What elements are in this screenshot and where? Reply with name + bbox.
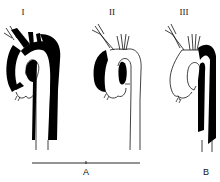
group-a-bracket <box>32 161 140 164</box>
aorta-type-3 <box>165 24 216 152</box>
aorta-diagram <box>0 0 220 182</box>
group-label-a: A <box>83 168 89 177</box>
aorta-type-2 <box>92 24 141 150</box>
group-label-b: B <box>203 168 209 177</box>
aorta-type-1 <box>4 26 60 150</box>
